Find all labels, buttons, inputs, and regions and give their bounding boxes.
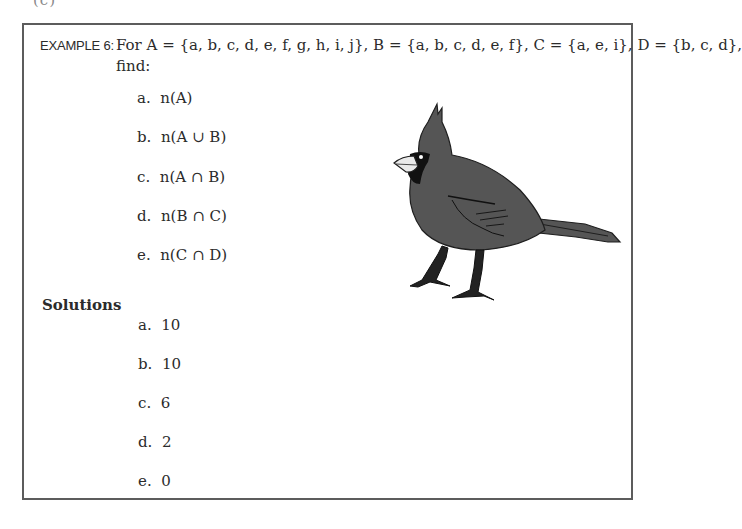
answer-letter: e. [138, 472, 152, 490]
question-item-b: b. n(A ∪ B) [137, 128, 226, 146]
solutions-heading: Solutions [42, 296, 121, 314]
question-expr: n(A) [160, 89, 192, 107]
question-item-c: c. n(A ∩ B) [137, 168, 225, 186]
question-letter: c. [137, 168, 150, 186]
question-expr: n(A ∪ B) [161, 128, 226, 146]
answer-letter: a. [138, 316, 152, 334]
answer-value: 2 [162, 433, 172, 451]
answer-value: 10 [161, 316, 180, 334]
example-statement-cont: find: [116, 57, 150, 75]
question-expr: n(A ∩ B) [160, 168, 225, 186]
answer-item-a: a. 10 [138, 316, 180, 334]
question-letter: b. [137, 128, 151, 146]
question-letter: d. [137, 207, 151, 225]
answer-item-e: e. 0 [138, 472, 171, 490]
question-letter: a. [137, 89, 151, 107]
example-statement: For A = {a, b, c, d, e, f, g, h, i, j}, … [116, 36, 742, 54]
example-label: EXAMPLE 6: [40, 37, 114, 55]
answer-letter: c. [138, 394, 151, 412]
answer-letter: b. [138, 355, 152, 373]
question-item-e: e. n(C ∩ D) [137, 246, 227, 264]
question-expr: n(B ∩ C) [161, 207, 227, 225]
question-letter: e. [137, 246, 151, 264]
answer-value: 0 [161, 472, 171, 490]
answer-item-b: b. 10 [138, 355, 181, 373]
question-expr: n(C ∩ D) [160, 246, 227, 264]
answer-value: 6 [161, 394, 171, 412]
page-fragment-text: (c) [33, 0, 56, 9]
cardinal-bird-illustration [380, 100, 630, 310]
answer-value: 10 [162, 355, 181, 373]
answer-item-d: d. 2 [138, 433, 171, 451]
answer-item-c: c. 6 [138, 394, 170, 412]
question-item-a: a. n(A) [137, 89, 192, 107]
question-item-d: d. n(B ∩ C) [137, 207, 227, 225]
answer-letter: d. [138, 433, 152, 451]
